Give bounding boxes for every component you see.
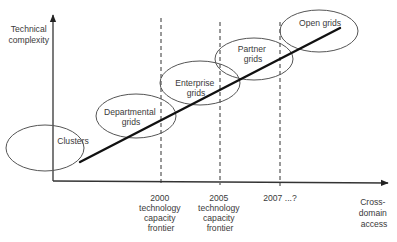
- open-grids-ellipse: [280, 10, 358, 52]
- y-axis-label: Technical complexity: [8, 24, 49, 45]
- frontier-2007-label: 2007 ...?: [263, 193, 297, 203]
- frontier-2000-label: 2000 technology capacity frontier: [139, 193, 183, 233]
- grid-evolution-diagram: Technical complexity Cross- domain acces…: [0, 0, 397, 242]
- clusters-ellipse: [6, 125, 84, 171]
- departmental-grids-label: Departmental grids: [104, 107, 158, 127]
- open-grids-label: Open grids: [299, 18, 341, 28]
- partner-grids-label: Partner grids: [238, 44, 269, 64]
- clusters-label: Clusters: [57, 136, 89, 146]
- x-axis-label: Cross- domain access: [359, 197, 390, 229]
- x-axis: [53, 181, 388, 183]
- trend-line: [80, 28, 340, 162]
- frontier-2005-label: 2005 technology capacity frontier: [198, 193, 242, 233]
